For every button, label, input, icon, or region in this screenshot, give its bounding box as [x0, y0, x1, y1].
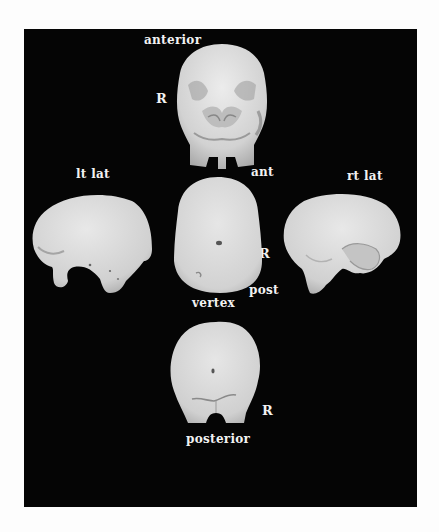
posterior-view-label: posterior: [186, 433, 250, 445]
posterior-brain-render: [166, 319, 266, 429]
right-lateral-brain-render: [280, 189, 406, 299]
vertex-view-label: vertex: [192, 297, 235, 309]
vertex-brain-render: [170, 175, 266, 297]
right-lateral-view-label: rt lat: [347, 170, 383, 182]
anterior-right-marker: R: [156, 92, 167, 105]
left-lateral-brain-render: [28, 189, 158, 299]
figure-panel: anterior R lt lat: [24, 29, 417, 507]
left-lateral-view-label: lt lat: [76, 168, 110, 180]
anterior-brain-render: [172, 41, 272, 181]
